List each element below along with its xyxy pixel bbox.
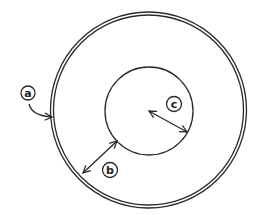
label-b: b: [103, 163, 118, 178]
label-c: c: [167, 97, 182, 112]
concentric-circles-diagram: a b c: [0, 0, 262, 215]
outer-circle: [51, 12, 247, 208]
arrow-a: [29, 104, 52, 117]
label-a-text: a: [24, 87, 31, 100]
label-b-text: b: [106, 164, 114, 177]
arrow-c: [149, 111, 187, 132]
label-a: a: [21, 86, 35, 100]
label-c-text: c: [171, 98, 178, 111]
